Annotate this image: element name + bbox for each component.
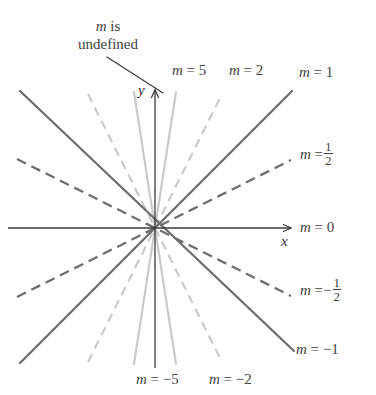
label-slope-half-m: m xyxy=(300,146,311,162)
label-slope-5-equals: = xyxy=(187,62,195,78)
label-slope-1-value: 1 xyxy=(326,64,334,80)
label-slope-2-value: 2 xyxy=(256,62,264,78)
label-slope-5-value: 5 xyxy=(199,62,207,78)
annotation-leader-line xyxy=(107,57,163,93)
label-slope-2-equals: = xyxy=(244,62,252,78)
annotation-line-1: m is xyxy=(96,18,121,34)
label-slope-0-value: 0 xyxy=(327,219,335,235)
minus-sign: − xyxy=(236,371,244,387)
annotation-line-2: undefined xyxy=(78,36,138,52)
m-symbol: m xyxy=(96,18,107,34)
fraction-denominator: 2 xyxy=(333,289,342,303)
label-slope-neg-1: m = −1 xyxy=(296,341,339,358)
fraction-one-half-neg: 12 xyxy=(333,276,342,303)
label-slope-2-m: m xyxy=(229,62,240,78)
label-slope-5: m = 5 xyxy=(172,62,206,79)
label-slope-neg-half-m: m xyxy=(300,282,311,298)
label-slope-neg-half-equals: = xyxy=(315,282,323,298)
label-slope-neg-1-equals: = xyxy=(311,341,319,357)
label-slope-neg-1-m: m xyxy=(296,341,307,357)
label-slope-0-m: m xyxy=(300,219,311,235)
slope-figure: m is undefined y x m = 5 m = 2 m = 1 m =… xyxy=(0,0,376,395)
line-slope-1 xyxy=(20,91,292,363)
minus-sign: − xyxy=(163,371,171,387)
label-slope-1-m: m xyxy=(299,64,310,80)
x-axis-label: x xyxy=(281,233,288,250)
label-slope-1: m = 1 xyxy=(299,64,333,81)
label-slope-neg-5: m = −5 xyxy=(136,371,179,388)
label-slope-neg-5-value: 5 xyxy=(171,371,179,387)
label-slope-neg-2-value: 2 xyxy=(244,371,252,387)
fraction-numerator: 1 xyxy=(333,276,342,289)
fraction-one-half: 12 xyxy=(324,140,333,167)
y-axis-label: y xyxy=(138,82,145,99)
label-slope-neg-5-equals: = xyxy=(151,371,159,387)
fraction-denominator: 2 xyxy=(324,153,333,167)
fraction-numerator: 1 xyxy=(324,140,333,153)
label-slope-half: m =12 xyxy=(300,140,333,167)
label-slope-neg-2-m: m xyxy=(209,371,220,387)
label-slope-2: m = 2 xyxy=(229,62,263,79)
slope-plot-svg xyxy=(0,0,376,395)
label-slope-neg-5-m: m xyxy=(136,371,147,387)
label-slope-neg-2: m = −2 xyxy=(209,371,252,388)
label-slope-half-equals: = xyxy=(315,146,323,162)
label-slope-0-equals: = xyxy=(315,219,323,235)
minus-sign: − xyxy=(323,341,331,357)
label-slope-neg-1-value: 1 xyxy=(331,341,339,357)
undefined-slope-annotation: m is undefined xyxy=(48,18,168,53)
label-slope-neg-2-equals: = xyxy=(224,371,232,387)
minus-sign: − xyxy=(323,282,331,298)
label-slope-5-m: m xyxy=(172,62,183,78)
label-slope-1-equals: = xyxy=(314,64,322,80)
annotation-is-word: is xyxy=(107,18,121,34)
label-slope-neg-half: m =−12 xyxy=(300,276,341,303)
label-slope-0: m = 0 xyxy=(300,219,334,236)
